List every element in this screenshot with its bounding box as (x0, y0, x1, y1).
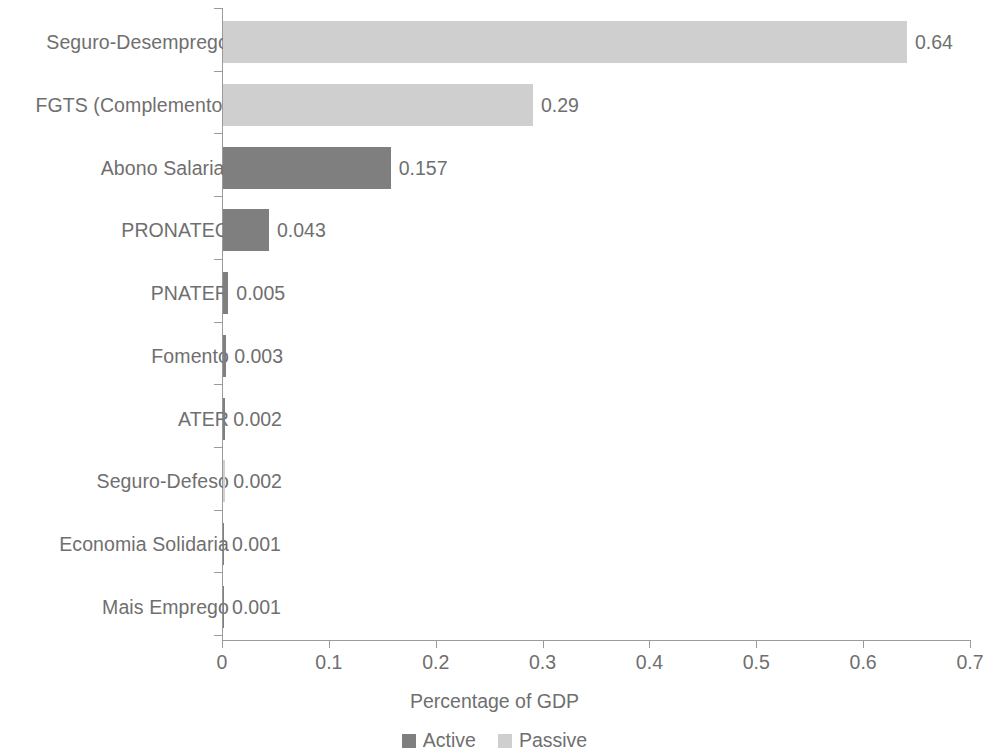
category-label: FGTS (Complemento) (35, 94, 229, 117)
category-label: PNATER (151, 282, 229, 305)
bar-value-label: 0.64 (915, 31, 953, 54)
y-axis-tick (214, 196, 222, 197)
bar-value-label: 0.157 (399, 156, 448, 179)
y-axis-tick (214, 8, 222, 9)
bar-value-label: 0.29 (541, 94, 579, 117)
x-axis-tick-label: 0.3 (529, 651, 556, 674)
x-axis-tick-label: 0.1 (315, 651, 342, 674)
y-axis-tick (214, 510, 222, 511)
bar-row: PNATER0.005 (0, 262, 989, 325)
bar-row: FGTS (Complemento)0.29 (0, 74, 989, 137)
x-axis-tick-label: 0.4 (636, 651, 663, 674)
x-axis-tick-label: 0.6 (850, 651, 877, 674)
plot-area: Seguro-Desemprego0.64FGTS (Complemento)0… (0, 0, 989, 640)
bar-value-label: 0.002 (233, 470, 282, 493)
y-axis-tick (214, 259, 222, 260)
x-axis-tick (970, 640, 971, 648)
x-axis-tick (863, 640, 864, 648)
bar-value-label: 0.005 (236, 282, 285, 305)
x-axis-tick (436, 640, 437, 648)
legend-swatch-icon (498, 734, 512, 748)
y-axis-tick (214, 71, 222, 72)
bar-active (223, 398, 225, 440)
x-axis-tick (649, 640, 650, 648)
chart-legend: ActivePassive (0, 729, 989, 752)
bar-active (223, 335, 226, 377)
x-axis-tick (543, 640, 544, 648)
bar-value-label: 0.001 (232, 532, 281, 555)
x-axis-tick (756, 640, 757, 648)
bar-passive (223, 460, 225, 502)
legend-item-passive[interactable]: Passive (498, 729, 587, 752)
bar-row: PRONATEC0.043 (0, 199, 989, 262)
bar-chart: Seguro-Desemprego0.64FGTS (Complemento)0… (0, 0, 989, 756)
bar-passive (223, 84, 533, 126)
category-label: Fomento (151, 344, 229, 367)
category-label: ATER (178, 407, 229, 430)
x-axis-tick (329, 640, 330, 648)
bar-active (223, 523, 224, 565)
category-label: Seguro-Desemprego (46, 31, 229, 54)
bar-row: Fomento0.003 (0, 325, 989, 388)
category-label: Economia Solidaria (59, 532, 229, 555)
y-axis-tick (214, 322, 222, 323)
x-axis-tick-label: 0.7 (956, 651, 983, 674)
bar-active (223, 147, 391, 189)
bar-row: Economia Solidaria0.001 (0, 513, 989, 576)
bar-value-label: 0.003 (234, 344, 283, 367)
bar-value-label: 0.001 (232, 595, 281, 618)
y-axis-tick (214, 635, 222, 636)
bar-active (223, 272, 228, 314)
x-axis-tick-label: 0 (217, 651, 228, 674)
bar-row: ATER0.002 (0, 387, 989, 450)
category-label: Abono Salarial (101, 156, 229, 179)
category-label: Seguro-Defeso (97, 470, 229, 493)
y-axis-tick (214, 572, 222, 573)
legend-label: Passive (519, 729, 587, 752)
x-axis-title: Percentage of GDP (0, 690, 989, 713)
bar-active (223, 209, 269, 251)
bar-active (223, 586, 224, 628)
bar-passive (223, 21, 907, 63)
legend-label: Active (423, 729, 476, 752)
y-axis-tick (214, 133, 222, 134)
x-axis-tick-label: 0.2 (422, 651, 449, 674)
x-axis-tick-label: 0.5 (743, 651, 770, 674)
legend-item-active[interactable]: Active (402, 729, 476, 752)
bar-value-label: 0.002 (233, 407, 282, 430)
bar-row: Abono Salarial0.157 (0, 136, 989, 199)
bar-value-label: 0.043 (277, 219, 326, 242)
x-axis-line (222, 640, 970, 641)
category-label: PRONATEC (121, 219, 229, 242)
bar-row: Seguro-Desemprego0.64 (0, 11, 989, 74)
category-label: Mais Emprego (102, 595, 229, 618)
bar-row: Seguro-Defeso0.002 (0, 450, 989, 513)
y-axis-tick (214, 447, 222, 448)
legend-swatch-icon (402, 734, 416, 748)
y-axis-tick (214, 384, 222, 385)
bar-row: Mais Emprego0.001 (0, 575, 989, 638)
x-axis-tick (222, 640, 223, 648)
